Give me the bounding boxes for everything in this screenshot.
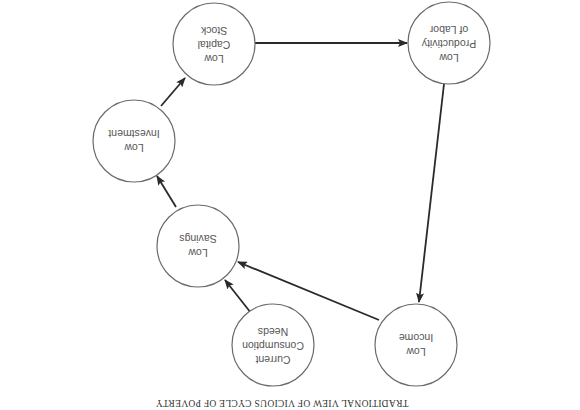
node-low-productivity: Low Productivity of Labor — [408, 2, 490, 84]
node-label-line: Low — [188, 247, 208, 259]
figure-caption: TRADITIONAL VIEW OF VICIOUS CYCLE OF POV… — [156, 398, 409, 408]
node-low-income: Low Income — [375, 304, 457, 386]
node-label-line: Low — [406, 346, 426, 358]
node-label-line: Consumption — [242, 340, 304, 352]
node-low-capital-stock: Low Capital Stock — [173, 3, 255, 85]
node-label-line: Low — [439, 52, 459, 64]
node-label-line: Low — [204, 53, 224, 65]
arrow-savings-to-investment — [157, 176, 176, 207]
node-label-line: Stock — [200, 25, 227, 37]
node-low-savings: Low Savings — [157, 205, 239, 287]
node-label-line: Low — [124, 142, 144, 154]
node-low-investment: Low Investment — [93, 100, 175, 182]
arrow-investment-to-capital — [161, 78, 185, 106]
node-label-line: Investment — [108, 128, 159, 140]
node-current-consumption-needs: Current Consumption Needs — [232, 304, 314, 386]
node-label-line: Current — [255, 354, 290, 366]
node-label-line: Savings — [179, 233, 216, 245]
node-label-line: Income — [399, 332, 434, 344]
vicious-cycle-diagram: Low Productivity of Labor Low Capital St… — [0, 0, 580, 410]
node-label-line: of Labor — [429, 24, 468, 36]
node-label-line: Needs — [258, 326, 288, 338]
node-label-line: Capital — [198, 39, 231, 51]
arrow-consumption-to-savings — [225, 280, 251, 313]
node-label-line: Productivity — [421, 38, 476, 50]
arrow-productivity-to-income — [419, 84, 444, 302]
